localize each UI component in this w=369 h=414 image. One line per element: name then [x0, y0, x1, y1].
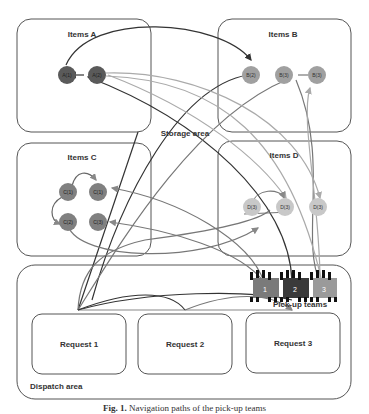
caption-text: Navigation paths of the pick-up teams [129, 403, 266, 413]
storage-area-label: Storage area [161, 129, 210, 138]
items-d-label: Items D [270, 151, 299, 160]
caption-prefix: Fig. 1. [103, 403, 127, 413]
svg-text:D(3): D(3) [280, 204, 290, 210]
node-d3-b: D(3) [276, 198, 294, 216]
pickup-teams: 1 2 3 [250, 270, 337, 302]
warehouse-diagram: A(1) A(2) B(2) B(3) B(3) C(1) C(1) C(2) … [0, 0, 369, 414]
node-b3-a: B(3) [275, 66, 293, 84]
node-c3: C(3) [89, 213, 107, 231]
items-c-label: Items C [68, 153, 97, 162]
svg-text:3: 3 [322, 286, 326, 293]
team-2-icon: 2 [280, 270, 309, 302]
team-1-icon: 1 [250, 270, 279, 302]
node-c1-b: C(1) [89, 183, 107, 201]
node-a1: A(1) [58, 66, 76, 84]
node-c2: C(2) [59, 213, 77, 231]
node-d3-a: D(3) [243, 198, 261, 216]
svg-text:B(3): B(3) [312, 72, 322, 78]
dispatch-area-label: Dispatch area [30, 382, 83, 391]
svg-text:A(1): A(1) [62, 72, 72, 78]
svg-text:1: 1 [263, 286, 267, 293]
figure-caption: Fig. 1. Navigation paths of the pick-up … [0, 403, 369, 413]
request-3-label: Request 3 [274, 339, 313, 348]
svg-text:D(3): D(3) [247, 204, 257, 210]
svg-text:C(2): C(2) [63, 219, 73, 225]
pickup-teams-label: Pick-up teams [273, 300, 328, 309]
items-a-label: Items A [68, 30, 97, 39]
svg-text:C(1): C(1) [93, 189, 103, 195]
node-c1-a: C(1) [59, 183, 77, 201]
team-3-icon: 3 [310, 270, 337, 302]
request-2-label: Request 2 [166, 340, 205, 349]
svg-text:C(3): C(3) [93, 219, 103, 225]
items-b-label: Items B [269, 30, 298, 39]
svg-text:D(3): D(3) [313, 204, 323, 210]
svg-text:B(2): B(2) [246, 72, 256, 78]
node-b2: B(2) [242, 66, 260, 84]
node-d3-c: D(3) [309, 198, 327, 216]
node-b3-b: B(3) [308, 66, 326, 84]
svg-text:B(3): B(3) [279, 72, 289, 78]
svg-text:2: 2 [293, 286, 297, 293]
node-a2: A(2) [88, 66, 106, 84]
svg-text:A(2): A(2) [92, 72, 102, 78]
svg-text:C(1): C(1) [63, 189, 73, 195]
request-1-label: Request 1 [60, 340, 99, 349]
